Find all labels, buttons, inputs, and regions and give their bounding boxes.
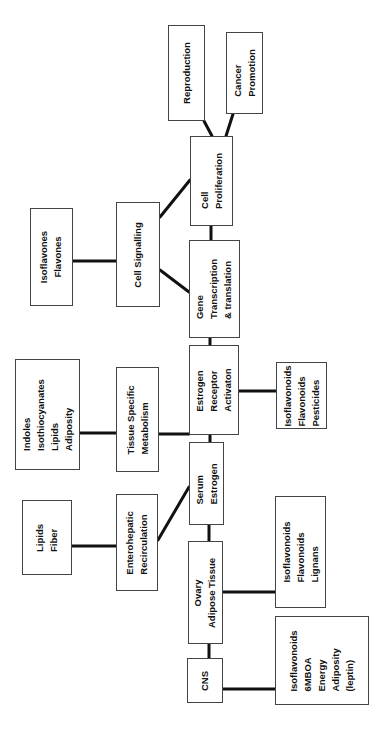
node-label: CNS (198, 670, 212, 690)
node-label: Lipids Fiber (33, 524, 61, 552)
node-ovary-modulators: Isoflavonoids Flavonoids Lignans (275, 496, 326, 608)
node-label: Indoles Isothiocyanates Lipids Adiposity (20, 379, 76, 451)
node-label: Ovary Adipose Tissue (192, 557, 220, 627)
node-estrogen-receptor: Estrogen Receptor Activaton (189, 345, 239, 435)
edge-proliferation-cancer (226, 114, 233, 136)
node-cell-proliferation: Cell Proliferation (190, 136, 233, 226)
node-label: Isoflavonoids 6MBOA Energy Adiposity (le… (287, 630, 357, 691)
node-enterohepatic: Enterohepatic Recirculation (116, 494, 158, 591)
node-label: Reproduction (180, 42, 194, 104)
node-cancer-promotion: Cancer Promotion (226, 32, 263, 114)
node-label: Cell Proliferation (198, 153, 226, 209)
node-isoflavones-flavones: Isoflavones Flavones (30, 208, 73, 306)
node-cell-signalling: Cell Signalling (116, 202, 160, 307)
node-gene-transcription: Gene Transcription & translation (189, 240, 240, 338)
node-lipids-fiber: Lipids Fiber (22, 500, 72, 575)
node-label: Tissue Specific Metabolism (124, 385, 152, 454)
node-label: Estrogen Receptor Activaton (193, 368, 235, 411)
node-cns-modulators: Isoflavonoids 6MBOA Energy Adiposity (le… (275, 616, 369, 705)
edge-proliferation-reproduction (204, 121, 212, 136)
edge-signalling-proliferation (160, 180, 190, 217)
node-cns: CNS (187, 658, 223, 703)
node-label: Isoflavones Flavones (38, 231, 66, 283)
node-label: Gene Transcription & translation (194, 259, 236, 319)
edge-enterohepatic-serum (158, 487, 189, 540)
node-reproduction: Reproduction (168, 25, 205, 121)
node-label: Serum Estrogen (193, 463, 221, 504)
node-label: Enterohepatic Recirculation (123, 511, 151, 574)
edge-signalling-gene (160, 270, 189, 292)
node-ovary-adipose: Ovary Adipose Tissue (188, 541, 223, 644)
node-serum-estrogen: Serum Estrogen (189, 442, 224, 525)
node-label: Cell Signalling (131, 222, 145, 287)
node-label: Isoflavonoids Flavonoids Lignans (280, 521, 322, 582)
node-indoles-group: Indoles Isothiocyanates Lipids Adiposity (15, 359, 80, 470)
node-er-modulators: Isoflavonoids Flavonoids Pesticides (276, 362, 327, 429)
node-tissue-metabolism: Tissue Specific Metabolism (116, 367, 159, 472)
node-label: Cancer Promotion (231, 49, 259, 97)
node-label: Isoflavonoids Flavonoids Pesticides (281, 365, 323, 426)
